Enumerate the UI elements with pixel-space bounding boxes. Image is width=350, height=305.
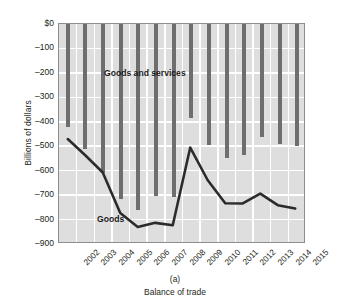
x-tick-label: 2006 [152,247,172,267]
x-tick-label: 2013 [275,247,295,267]
y-tick-label: –100 [18,43,54,52]
y-axis-tick-labels: $0–100–200–300–400–500–600–700–800–900 [18,23,54,243]
x-tick-label: 2011 [240,247,260,267]
y-tick-label: –300 [18,92,54,101]
y-tick-label: –600 [18,165,54,174]
x-tick-label: 2003 [99,247,119,267]
x-axis-tick-labels: 2002200320042005200620072008200920102011… [58,243,305,277]
y-tick-label: –500 [18,141,54,150]
goods-label: Goods [97,214,124,224]
x-tick-label: 2008 [187,247,207,267]
balance-of-trade-chart: Billions of dollars $0–100–200–300–400–5… [0,0,350,305]
x-tick-label: 2010 [222,247,242,267]
y-tick-label: –400 [18,117,54,126]
y-tick-label: $0 [18,19,54,28]
x-tick-label: 2015 [311,247,331,267]
y-tick-label: –700 [18,190,54,199]
x-tick-label: 2007 [169,247,189,267]
y-tick-label: –200 [18,68,54,77]
x-tick-label: 2012 [258,247,278,267]
x-tick-label: 2014 [293,247,313,267]
y-tick-label: –800 [18,214,54,223]
x-tick-label: 2009 [205,247,225,267]
x-tick-label: 2005 [134,247,154,267]
y-tick-label: –900 [18,239,54,248]
line-series-goods [59,24,304,242]
x-tick-label: 2004 [117,247,137,267]
panel-letter: (a) [0,274,350,284]
x-tick-label: 2002 [81,247,101,267]
x-axis-title: Balance of trade [0,287,350,297]
plot-area: Goods and services Goods [58,23,305,243]
goods-and-services-label: Goods and services [104,68,186,78]
